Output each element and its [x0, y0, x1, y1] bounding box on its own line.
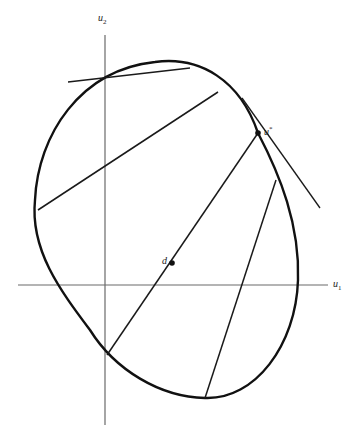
u2-axis-label: u2	[98, 13, 107, 26]
feasible-region-boundary	[34, 61, 298, 398]
u1-axis-label: u1	[333, 279, 342, 292]
point-u-star-label: u*	[264, 126, 273, 137]
chord-right	[205, 180, 276, 398]
diagram-canvas	[0, 0, 363, 439]
point-d	[169, 260, 175, 266]
point-u-star	[255, 130, 261, 136]
chord-upper	[38, 92, 218, 210]
chord-through-d	[107, 133, 258, 355]
chord-top	[68, 68, 190, 82]
tangent-line	[242, 98, 320, 208]
point-d-label: d	[162, 256, 167, 266]
